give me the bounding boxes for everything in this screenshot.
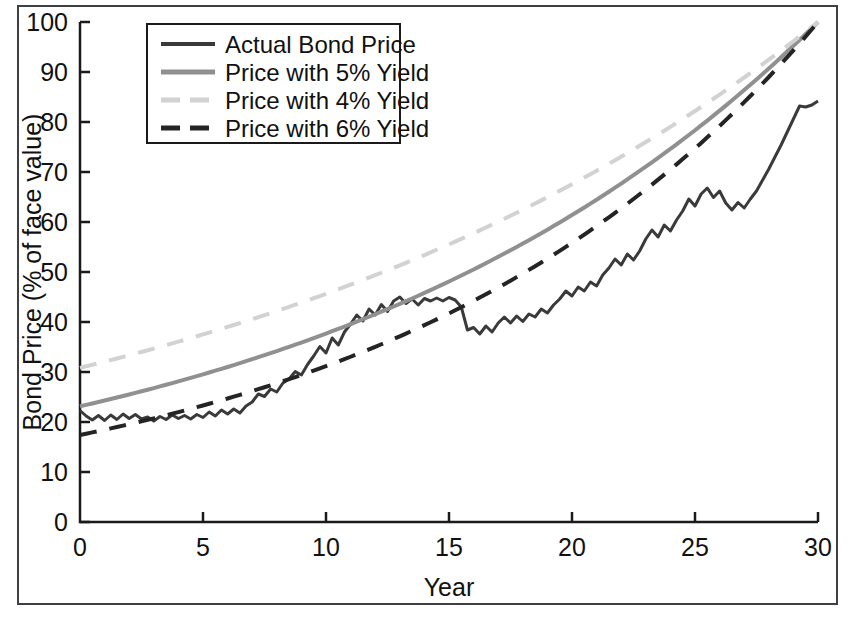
- x-tick-label: 20: [558, 533, 586, 561]
- x-tick-label: 25: [681, 533, 709, 561]
- legend-label-1: Actual Bond Price: [225, 31, 416, 58]
- x-axis-ticks: 051015202530: [73, 512, 832, 561]
- x-tick-label: 5: [196, 533, 210, 561]
- y-tick-label: 90: [40, 58, 68, 86]
- x-tick-label: 10: [312, 533, 340, 561]
- x-tick-label: 30: [804, 533, 832, 561]
- legend-label-4: Price with 6% Yield: [225, 115, 429, 142]
- y-axis-title: Bond Price (% of face value): [19, 114, 46, 431]
- x-tick-label: 0: [73, 533, 87, 561]
- y-tick-label: 10: [40, 458, 68, 486]
- y-tick-label: 100: [26, 8, 68, 36]
- chart-legend: Actual Bond PricePrice with 5% YieldPric…: [147, 24, 429, 143]
- legend-label-2: Price with 5% Yield: [225, 59, 429, 86]
- x-axis-title: Year: [424, 573, 475, 601]
- y-tick-label: 0: [54, 508, 68, 536]
- x-tick-label: 15: [435, 533, 463, 561]
- bond-price-chart: 0102030405060708090100051015202530YearBo…: [19, 7, 836, 603]
- series-line-1: [80, 101, 818, 421]
- figure-frame: 0102030405060708090100051015202530YearBo…: [17, 5, 838, 605]
- legend-label-3: Price with 4% Yield: [225, 87, 429, 114]
